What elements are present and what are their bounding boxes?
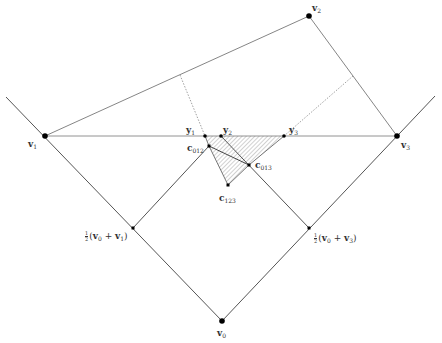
- point-y3: [282, 134, 286, 138]
- point-m01: [132, 227, 135, 230]
- right-boundary-line: [222, 96, 435, 321]
- point-c012: [208, 145, 211, 148]
- fraction-denominator: 2: [314, 238, 317, 244]
- paren-close: ): [124, 231, 128, 241]
- point-c013: [248, 164, 251, 167]
- label-v2-sub: 2: [317, 7, 321, 14]
- label-v3: v3: [401, 141, 410, 151]
- label-c012: c012: [187, 144, 204, 154]
- point-v2: [306, 13, 312, 19]
- fraction-denominator: 2: [85, 236, 88, 242]
- label-midpoint-v0-v3: 12(v0 + v3): [314, 233, 357, 244]
- label-v3-sub: 3: [406, 144, 410, 151]
- label-v0-sub: 0: [222, 332, 226, 339]
- paren-close: ): [353, 233, 357, 243]
- label-v1-sub: 1: [33, 143, 37, 150]
- fraction-half: 12: [314, 233, 317, 244]
- point-y1: [203, 134, 207, 138]
- fraction-half: 12: [85, 231, 88, 242]
- point-m03: [308, 227, 311, 230]
- edge-v1-v2: [45, 16, 309, 136]
- point-v3: [394, 133, 400, 139]
- label-y1-sub: 1: [191, 129, 195, 136]
- point-v0: [219, 318, 225, 324]
- label-y3-sub: 3: [294, 129, 298, 136]
- label-v0: v0: [217, 329, 226, 339]
- label-v1: v1: [28, 140, 37, 150]
- point-c123: [227, 184, 230, 187]
- geometric-diagram: [0, 0, 442, 343]
- label-midpoint-v0-v1: 12(v0 + v1): [85, 231, 128, 242]
- plus-sign: +: [331, 233, 344, 243]
- label-c013-sub: 013: [260, 164, 271, 171]
- label-c123: c123: [219, 194, 236, 204]
- label-y1: y1: [186, 126, 195, 136]
- label-v2: v2: [312, 4, 321, 14]
- label-c123-sub: 123: [224, 197, 235, 204]
- label-y3: y3: [289, 126, 298, 136]
- label-c013: c013: [255, 161, 272, 171]
- point-v1: [42, 133, 48, 139]
- label-y2: y2: [223, 126, 232, 136]
- label-y2-sub: 2: [228, 129, 232, 136]
- plus-sign: +: [102, 231, 115, 241]
- label-c012-sub: 012: [192, 147, 203, 154]
- bisector-m01: [133, 146, 209, 228]
